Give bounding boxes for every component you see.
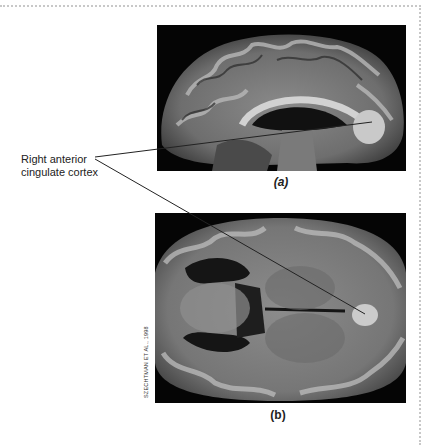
region-label: Right anterior cingulate cortex [21,153,98,179]
image-credit: SZECHTMAN ET AL., 1998 [143,326,149,398]
region-label-line1: Right anterior [21,153,98,166]
axial-mri-image [155,213,406,403]
panel-a-caption: (a) [261,175,301,189]
sagittal-mri-image [157,25,406,171]
region-label-line2: cingulate cortex [21,166,98,179]
panel-b-caption: (b) [258,408,298,422]
